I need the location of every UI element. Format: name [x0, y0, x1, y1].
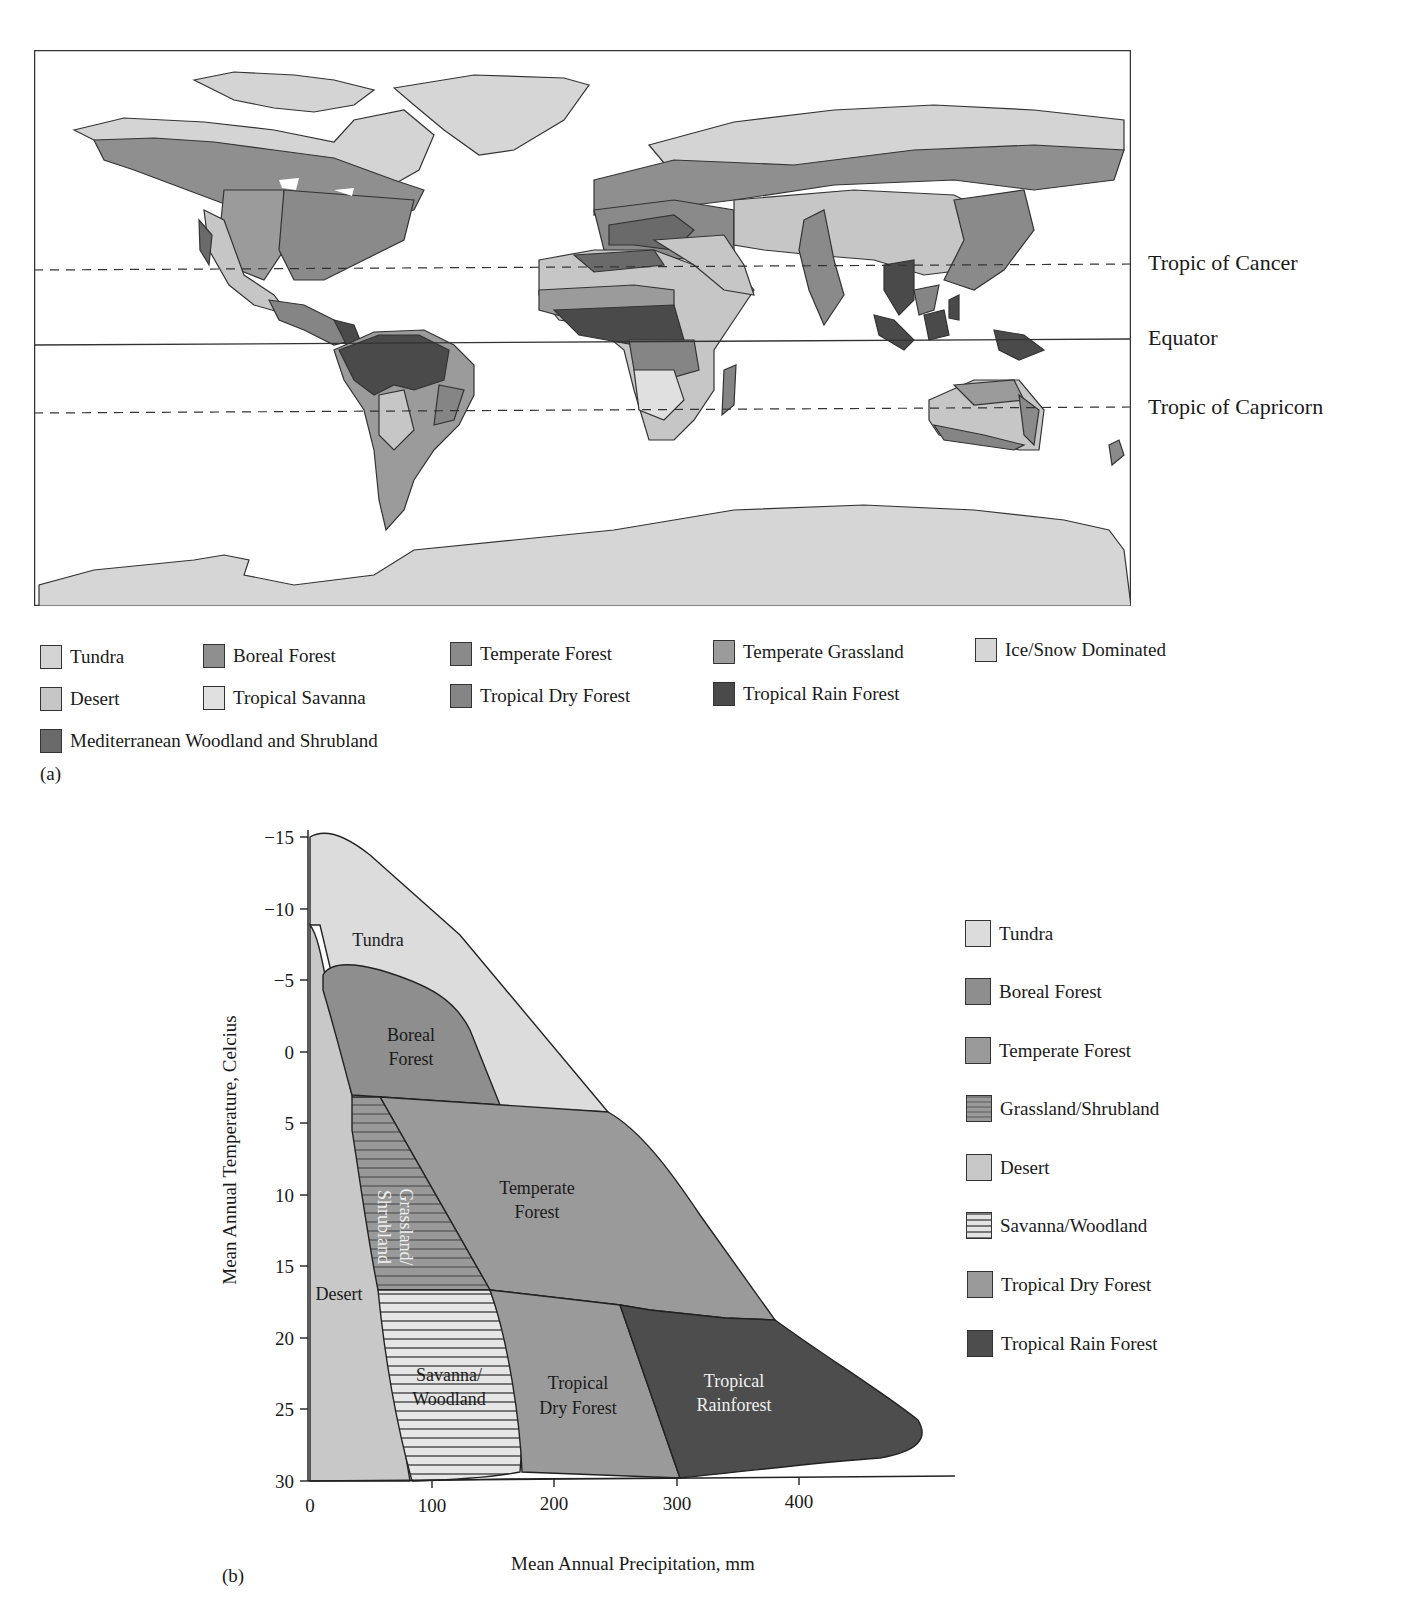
svg-text:−10: −10	[264, 899, 294, 920]
panel-b-label: (b)	[222, 1565, 244, 1587]
svg-text:20: 20	[275, 1328, 294, 1349]
svg-text:200: 200	[540, 1493, 569, 1514]
legend-label: Temperate Forest	[999, 1040, 1131, 1062]
y-tick-labels: −15 −10 −5 0 5 10 15 20 25 30	[264, 827, 294, 1492]
savanna-swatch-icon	[966, 1212, 992, 1239]
legend-a-mediterranean: Mediterranean Woodland and Shrubland	[40, 729, 378, 753]
legend-b-grassland: Grassland/Shrubland	[966, 1095, 1159, 1122]
panel-a-label: (a)	[40, 763, 61, 785]
tropic-of-cancer-label: Tropic of Cancer	[1148, 250, 1298, 276]
svg-text:0: 0	[305, 1495, 315, 1516]
label-boreal-1: Boreal	[387, 1025, 435, 1045]
y-axis-title: Mean Annual Temperature, Celcius	[219, 1015, 240, 1285]
svg-text:−15: −15	[264, 827, 294, 848]
label-grassland-1: Grassland/	[396, 1189, 416, 1266]
legend-label: Savanna/Woodland	[1000, 1215, 1147, 1237]
svg-text:15: 15	[275, 1256, 294, 1277]
legend-b-tropical-rain: Tropical Rain Forest	[967, 1330, 1158, 1357]
legend-label: Tropical Savanna	[233, 687, 366, 709]
label-boreal-2: Forest	[389, 1049, 434, 1069]
legend-a-tropical-rain-forest: Tropical Rain Forest	[713, 682, 900, 706]
desert-swatch-icon	[40, 687, 62, 711]
tropical-rain-swatch-icon	[967, 1330, 993, 1357]
legend-label: Tropical Rain Forest	[1001, 1333, 1158, 1355]
label-savanna-2: Woodland	[412, 1389, 486, 1409]
legend-label: Mediterranean Woodland and Shrubland	[70, 730, 378, 752]
legend-label: Tundra	[999, 923, 1053, 945]
label-tropical-dry-1: Tropical	[548, 1373, 608, 1393]
mediterranean-swatch-icon	[40, 729, 62, 753]
svg-text:−5: −5	[274, 970, 294, 991]
legend-b-tropical-dry: Tropical Dry Forest	[967, 1271, 1151, 1298]
desert-swatch-icon	[966, 1154, 992, 1181]
temperate-forest-swatch-icon	[450, 642, 472, 666]
legend-b-savanna: Savanna/Woodland	[966, 1212, 1147, 1239]
tropical-savanna-swatch-icon	[203, 686, 225, 710]
label-temperate-1: Temperate	[499, 1178, 575, 1198]
legend-b-desert: Desert	[966, 1154, 1050, 1181]
y-ticks	[300, 837, 308, 1481]
temperate-grassland-swatch-icon	[713, 640, 735, 664]
legend-label: Tropical Rain Forest	[743, 683, 900, 705]
legend-label: Boreal Forest	[999, 981, 1102, 1003]
svg-text:25: 25	[275, 1399, 294, 1420]
tundra-swatch-icon	[965, 920, 991, 947]
legend-label: Boreal Forest	[233, 645, 336, 667]
label-tundra: Tundra	[352, 930, 403, 950]
legend-label: Temperate Grassland	[743, 641, 904, 663]
legend-label: Tropical Dry Forest	[1001, 1274, 1151, 1296]
legend-b-tundra: Tundra	[965, 920, 1053, 947]
tropical-dry-forest-swatch-icon	[450, 684, 472, 708]
svg-text:300: 300	[663, 1493, 692, 1514]
legend-a-boreal-forest: Boreal Forest	[203, 644, 336, 668]
label-tropical-dry-2: Dry Forest	[539, 1398, 617, 1418]
svg-text:5: 5	[285, 1113, 295, 1134]
chart-canvas: −15 −10 −5 0 5 10 15 20 25 30 0 100 200 …	[210, 820, 970, 1600]
legend-a-tropical-savanna: Tropical Savanna	[203, 686, 366, 710]
legend-label: Grassland/Shrubland	[1000, 1098, 1159, 1120]
label-rainforest-1: Tropical	[704, 1371, 764, 1391]
x-tick-labels: 0 100 200 300 400	[305, 1491, 813, 1516]
legend-label: Desert	[1000, 1157, 1050, 1179]
legend-a-temperate-forest: Temperate Forest	[450, 642, 612, 666]
legend-a-tundra: Tundra	[40, 645, 124, 669]
label-desert: Desert	[316, 1284, 363, 1304]
legend-b-boreal-forest: Boreal Forest	[965, 978, 1102, 1005]
legend-b-temperate-forest: Temperate Forest	[965, 1037, 1131, 1064]
svg-text:30: 30	[275, 1471, 294, 1492]
legend-label: Ice/Snow Dominated	[1005, 639, 1166, 661]
boreal-forest-swatch-icon	[203, 644, 225, 668]
svg-text:0: 0	[285, 1042, 295, 1063]
biome-climate-chart: −15 −10 −5 0 5 10 15 20 25 30 0 100 200 …	[210, 820, 970, 1600]
legend-label: Tropical Dry Forest	[480, 685, 630, 707]
tropic-of-capricorn-label: Tropic of Capricorn	[1148, 394, 1323, 420]
legend-a-desert: Desert	[40, 687, 120, 711]
tropical-rain-forest-swatch-icon	[713, 682, 735, 706]
legend-label: Desert	[70, 688, 120, 710]
tundra-swatch-icon	[40, 645, 62, 669]
temperate-forest-swatch-icon	[965, 1037, 991, 1064]
svg-text:10: 10	[275, 1185, 294, 1206]
boreal-forest-swatch-icon	[965, 978, 991, 1005]
grassland-swatch-icon	[966, 1095, 992, 1122]
legend-a-tropical-dry-forest: Tropical Dry Forest	[450, 684, 630, 708]
equator-label: Equator	[1148, 325, 1218, 351]
svg-text:100: 100	[418, 1495, 447, 1516]
x-axis-title: Mean Annual Precipitation, mm	[511, 1553, 755, 1574]
world-biome-map	[34, 50, 1131, 606]
svg-text:400: 400	[785, 1491, 814, 1512]
label-rainforest-2: Rainforest	[697, 1395, 772, 1415]
legend-label: Tundra	[70, 646, 124, 668]
label-temperate-2: Forest	[515, 1202, 560, 1222]
map-canvas	[34, 50, 1131, 606]
tropical-dry-swatch-icon	[967, 1271, 993, 1298]
label-savanna-1: Savanna/	[416, 1365, 482, 1385]
label-grassland-2: Shrubland	[374, 1190, 394, 1264]
legend-a-temperate-grassland: Temperate Grassland	[713, 640, 904, 664]
legend-label: Temperate Forest	[480, 643, 612, 665]
ice-snow-swatch-icon	[975, 638, 997, 662]
legend-a-ice-snow: Ice/Snow Dominated	[975, 638, 1166, 662]
